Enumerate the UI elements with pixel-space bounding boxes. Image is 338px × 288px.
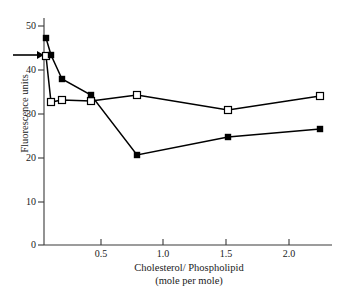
xtick-label-2-0: 2.0	[269, 249, 309, 259]
x-axis-ticks	[101, 239, 289, 245]
xtick-label-1-0: 1.0	[143, 249, 183, 259]
x-axis-title-line2: (mole per mole)	[44, 274, 334, 287]
x-axis-title-line1: Cholesterol/ Phospholipid	[44, 261, 334, 274]
ytick-label-10: 10	[12, 197, 36, 207]
x-axis-title: Cholesterol/ Phospholipid (mole per mole…	[44, 261, 334, 287]
xtick-label-0-5: 0.5	[81, 249, 121, 259]
series-filled-squares-line	[46, 38, 320, 155]
ytick-label-0: 0	[12, 240, 36, 250]
series-filled-squares-markers	[43, 35, 323, 158]
y-axis-title: Fluorescence units	[19, 44, 30, 184]
series-open-squares-markers	[43, 53, 324, 114]
chart-figure: 50 40 30 20 10 0 0.5 1.0 1.5 2.0 Fluores…	[0, 0, 338, 288]
plot-area	[0, 0, 338, 288]
ytick-label-50: 50	[12, 21, 36, 31]
xtick-label-1-5: 1.5	[206, 249, 246, 259]
